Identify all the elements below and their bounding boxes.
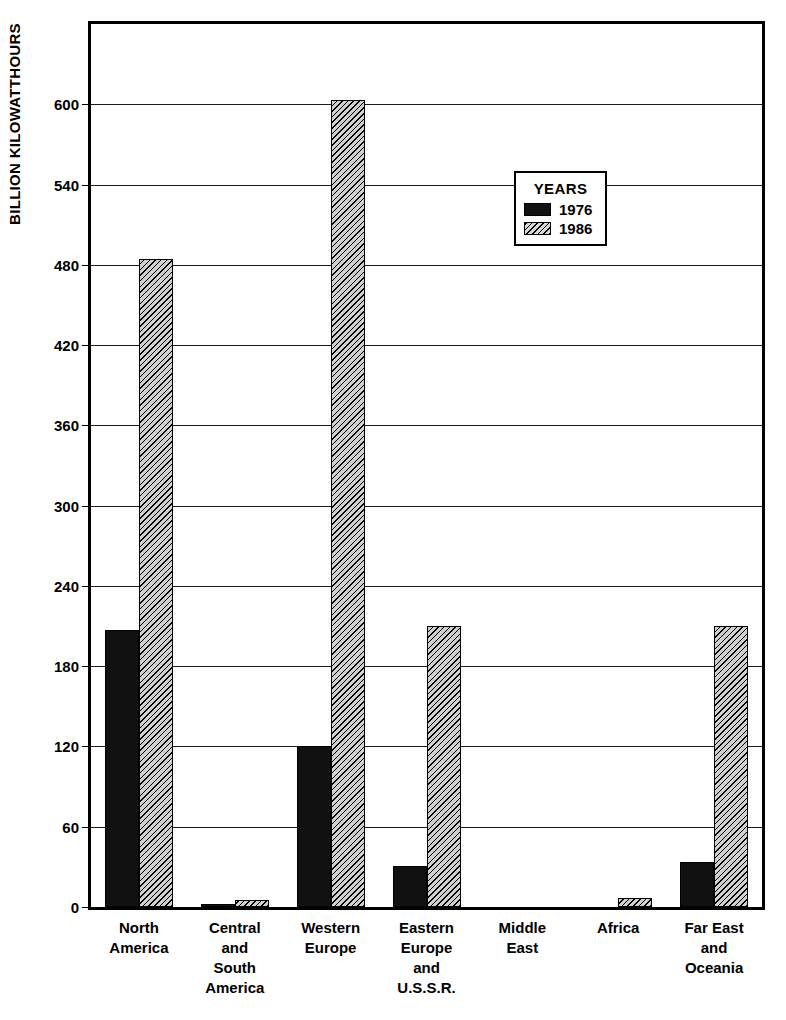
x-category-line: Europe bbox=[283, 938, 379, 958]
x-category-line: and bbox=[666, 938, 762, 958]
x-category-label-4: MiddleEast bbox=[474, 918, 570, 958]
legend-item-1976: 1976 bbox=[524, 202, 597, 217]
bar-1986-5 bbox=[618, 898, 652, 907]
y-tick-mark bbox=[82, 506, 91, 507]
y-tick-mark bbox=[82, 345, 91, 346]
y-tick-mark bbox=[82, 827, 91, 828]
y-tick-label: 420 bbox=[5, 338, 79, 353]
bar-1976-2 bbox=[297, 746, 331, 907]
y-tick-mark bbox=[82, 185, 91, 186]
y-tick-mark bbox=[82, 586, 91, 587]
y-tick-label: 180 bbox=[5, 659, 79, 674]
y-tick-mark bbox=[82, 425, 91, 426]
bars-layer bbox=[91, 24, 762, 907]
x-category-line: Far East bbox=[666, 918, 762, 938]
legend-title: YEARS bbox=[524, 180, 597, 197]
y-axis-title: BILLION KILOWATTHOURS bbox=[2, 0, 28, 294]
x-category-label-3: EasternEuropeandU.S.S.R. bbox=[379, 918, 475, 998]
y-tick-mark bbox=[82, 666, 91, 667]
plot-area: 060120180240300360420480540600 bbox=[88, 21, 765, 910]
y-tick-label: 240 bbox=[5, 578, 79, 593]
legend-swatch-1976-icon bbox=[524, 203, 551, 216]
x-category-label-1: CentralandSouthAmerica bbox=[187, 918, 283, 998]
legend-swatch-1986-icon bbox=[524, 222, 551, 235]
x-category-line: Middle bbox=[474, 918, 570, 938]
y-tick-label: 480 bbox=[5, 257, 79, 272]
y-tick-label: 0 bbox=[5, 900, 79, 915]
bar-1976-0 bbox=[105, 630, 139, 907]
x-category-label-0: NorthAmerica bbox=[91, 918, 187, 958]
x-category-line: Western bbox=[283, 918, 379, 938]
x-category-label-2: WesternEurope bbox=[283, 918, 379, 958]
x-category-line: Oceania bbox=[666, 958, 762, 978]
bar-1976-6 bbox=[680, 862, 714, 907]
bar-1986-1 bbox=[235, 900, 269, 907]
y-tick-mark bbox=[82, 907, 91, 908]
y-tick-label: 60 bbox=[5, 819, 79, 834]
y-tick-label: 540 bbox=[5, 177, 79, 192]
x-category-line: East bbox=[474, 938, 570, 958]
x-category-line: North bbox=[91, 918, 187, 938]
legend-item-1986: 1986 bbox=[524, 221, 597, 236]
legend: YEARS 1976 1986 bbox=[514, 171, 607, 246]
bar-chart-figure: BILLION KILOWATTHOURS 060120180240300360… bbox=[0, 0, 786, 1020]
x-category-line: Eastern bbox=[379, 918, 475, 938]
x-category-label-6: Far EastandOceania bbox=[666, 918, 762, 978]
x-axis-category-labels: NorthAmericaCentralandSouthAmericaWester… bbox=[88, 918, 765, 1018]
bar-1986-2 bbox=[331, 100, 365, 907]
y-tick-label: 120 bbox=[5, 739, 79, 754]
x-category-line: Central bbox=[187, 918, 283, 938]
y-tick-label: 600 bbox=[5, 97, 79, 112]
x-category-line: America bbox=[91, 938, 187, 958]
legend-label-1976: 1976 bbox=[559, 202, 592, 217]
bar-1986-0 bbox=[139, 259, 173, 907]
bar-1976-3 bbox=[393, 866, 427, 907]
x-category-line: and bbox=[187, 938, 283, 958]
plot-inner: 060120180240300360420480540600 bbox=[91, 24, 762, 907]
bar-1986-6 bbox=[714, 626, 748, 907]
y-tick-mark bbox=[82, 265, 91, 266]
y-tick-label: 360 bbox=[5, 418, 79, 433]
y-tick-mark bbox=[82, 746, 91, 747]
y-tick-label: 300 bbox=[5, 498, 79, 513]
x-category-line: and bbox=[379, 958, 475, 978]
bar-1986-3 bbox=[427, 626, 461, 907]
y-tick-mark bbox=[82, 104, 91, 105]
x-category-line: U.S.S.R. bbox=[379, 978, 475, 998]
bar-1976-1 bbox=[201, 904, 235, 907]
x-category-line: Europe bbox=[379, 938, 475, 958]
legend-label-1986: 1986 bbox=[559, 221, 592, 236]
x-category-label-5: Africa bbox=[570, 918, 666, 938]
x-category-line: America bbox=[187, 978, 283, 998]
x-category-line: South bbox=[187, 958, 283, 978]
x-category-line: Africa bbox=[570, 918, 666, 938]
